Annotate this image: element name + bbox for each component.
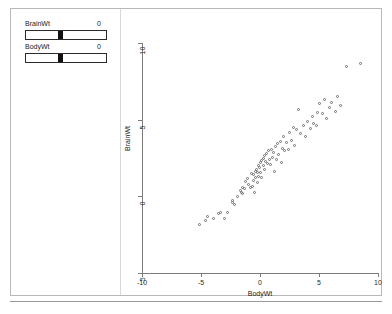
data-point: [292, 126, 295, 129]
data-point: [312, 122, 315, 125]
slider-brainwt-header: BrainWt 0: [25, 18, 107, 29]
slider-brainwt[interactable]: BrainWt 0: [25, 18, 107, 40]
data-point: [204, 219, 207, 222]
data-point: [297, 108, 300, 111]
data-point: [241, 186, 244, 189]
data-point: [263, 168, 266, 171]
data-point: [316, 111, 319, 114]
data-point: [231, 199, 234, 202]
slider-bodywt-thumb[interactable]: [58, 54, 63, 62]
x-tick: [260, 273, 261, 277]
data-point: [247, 183, 250, 186]
data-point: [281, 147, 284, 150]
data-point: [295, 128, 298, 131]
data-point: [217, 212, 220, 215]
x-tick-label: 0: [248, 279, 272, 286]
data-point: [259, 161, 262, 164]
data-point: [262, 157, 265, 160]
x-tick: [378, 273, 379, 277]
slider-brainwt-thumb[interactable]: [58, 31, 63, 39]
data-point: [339, 104, 342, 107]
data-point: [257, 175, 260, 178]
data-point: [274, 145, 277, 148]
x-tick: [142, 273, 143, 277]
slider-bodywt[interactable]: BodyWt 0: [25, 41, 107, 63]
data-point: [212, 217, 215, 220]
data-point: [252, 179, 255, 182]
data-point: [275, 158, 278, 161]
data-point: [249, 186, 252, 189]
data-point: [325, 117, 328, 120]
data-point: [260, 176, 263, 179]
data-point: [259, 171, 262, 174]
data-points-layer: [121, 9, 382, 295]
data-point: [258, 166, 261, 169]
data-point: [283, 149, 286, 152]
data-point: [315, 124, 318, 127]
data-point: [262, 164, 265, 167]
data-point: [254, 176, 257, 179]
data-point: [318, 102, 321, 105]
data-point: [306, 120, 309, 123]
data-point: [280, 161, 283, 164]
data-point: [206, 215, 209, 218]
slider-brainwt-value: 0: [97, 18, 101, 29]
data-point: [309, 127, 312, 130]
slider-brainwt-track[interactable]: [25, 30, 107, 40]
data-point: [270, 148, 273, 151]
data-point: [266, 162, 269, 165]
y-tick-label: 0: [139, 196, 146, 212]
data-point: [260, 159, 263, 162]
data-point: [239, 189, 242, 192]
data-point: [273, 170, 276, 173]
data-point: [323, 98, 326, 101]
data-point: [321, 112, 324, 115]
data-point: [288, 131, 291, 134]
data-point: [302, 124, 305, 127]
data-point: [304, 135, 307, 138]
slider-bodywt-track[interactable]: [25, 53, 107, 63]
data-point: [290, 139, 293, 142]
slider-bodywt-value: 0: [97, 41, 101, 52]
data-point: [359, 62, 362, 65]
y-tick-label: 10: [139, 43, 146, 59]
data-point: [219, 211, 222, 214]
data-point: [243, 187, 246, 190]
data-point: [272, 151, 275, 154]
x-tick-label: -5: [189, 279, 213, 286]
data-point: [246, 177, 249, 180]
data-point: [282, 135, 285, 138]
x-tick: [319, 273, 320, 277]
application-window: BrainWt 0 BodyWt 0 -50510 -10-50510 Brai…: [10, 8, 382, 296]
data-point: [240, 191, 243, 194]
x-axis-title: BodyWt: [142, 290, 378, 297]
data-point: [255, 168, 258, 171]
data-point: [287, 148, 290, 151]
data-point: [241, 192, 244, 195]
data-point: [253, 191, 256, 194]
data-point: [251, 185, 254, 188]
data-point: [263, 154, 266, 157]
x-tick-label: -10: [130, 279, 154, 286]
data-point: [293, 144, 296, 147]
data-point: [299, 132, 302, 135]
data-point: [233, 203, 236, 206]
data-point: [269, 163, 272, 166]
scatter-plot: -50510 -10-50510 BrainWt BodyWt: [121, 9, 382, 295]
data-point: [198, 223, 201, 226]
data-point: [231, 201, 234, 204]
data-point: [271, 156, 274, 159]
data-point: [256, 181, 259, 184]
x-tick-label: 5: [307, 279, 331, 286]
data-point: [256, 171, 259, 174]
data-point: [223, 217, 226, 220]
data-point: [345, 65, 348, 68]
slider-bodywt-label: BodyWt: [25, 41, 50, 52]
data-point: [334, 110, 337, 113]
data-point: [279, 140, 282, 143]
data-point: [336, 95, 339, 98]
slider-bodywt-header: BodyWt 0: [25, 41, 107, 52]
y-axis-line: [142, 43, 143, 273]
data-point: [257, 164, 260, 167]
data-point: [250, 172, 253, 175]
